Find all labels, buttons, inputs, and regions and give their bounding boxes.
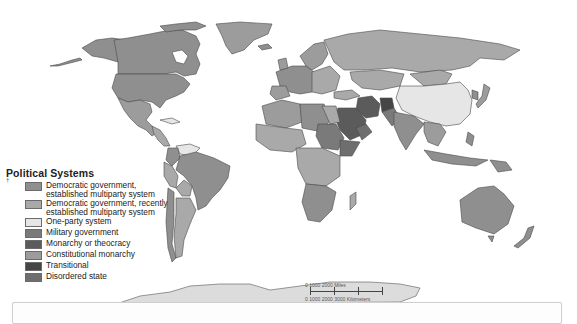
region-iberia [270,86,290,100]
legend-item: Military government [6,228,176,238]
legend-item: Constitutional monarchy [6,250,176,260]
legend-swatch [25,240,42,249]
region-central-africa [296,148,340,186]
legend-label: Transitional [46,261,89,270]
legend-item: Democratic government, established multi… [6,181,176,198]
legend-swatch [25,182,42,191]
scale-tick [310,287,311,295]
legend-swatch [25,218,42,227]
region-cuba [160,118,180,124]
region-horn-of-africa [340,140,360,156]
region-iceland [258,44,272,50]
legend-label: One-party system [46,217,111,226]
region-north-africa-west [262,100,302,128]
caption-panel [12,302,562,324]
legend-item: Democratic government, recently establis… [6,199,176,216]
region-new-zealand [514,226,534,248]
region-turkey [334,90,360,100]
region-australia [460,186,514,234]
legend-label: Democratic government, established multi… [46,181,155,198]
legend-swatch [25,200,42,209]
scale-tick [358,287,359,295]
region-mexico [118,98,158,136]
legend-swatch [25,229,42,238]
region-southeast-asia [424,122,446,146]
region-indonesia [424,150,488,166]
region-kazakhstan [350,70,404,90]
scale-tick [382,287,383,295]
legend-item: One-party system [6,217,176,227]
region-new-guinea [490,160,512,172]
region-canada [114,30,200,76]
legend-item: Disordered state [6,272,176,282]
legend-swatch [25,273,42,282]
legend-item: Monarchy or theocracy [6,239,176,249]
legend-label: Democratic government, recently establis… [46,199,168,216]
region-tasmania [488,236,494,242]
region-aleutians [50,58,82,66]
scale-tick [334,287,335,295]
legend: Political Systems Democratic government,… [6,167,176,283]
region-madagascar [350,192,356,210]
region-korea [472,90,478,100]
legend-swatch [25,251,42,260]
region-southern-africa [302,184,336,222]
legend-label: Military government [46,228,118,237]
scale-miles-label: 0 1000 2000 Miles [305,282,346,288]
legend-label: Disordered state [46,272,107,281]
region-eastern-europe [312,66,340,94]
legend-label: Constitutional monarchy [46,250,135,259]
region-philippines [466,132,474,146]
region-argentina [174,198,196,258]
scale-bar-line [310,291,382,292]
legend-swatch [25,262,42,271]
region-russia [324,30,520,72]
legend-title: Political Systems [6,167,176,179]
region-uk [278,58,288,70]
region-central-america [152,126,170,146]
region-mongolia [410,70,452,86]
legend-label: Monarchy or theocracy [46,239,130,248]
legend-item: Transitional [6,261,176,271]
